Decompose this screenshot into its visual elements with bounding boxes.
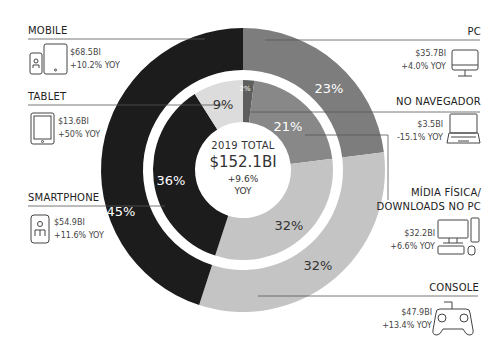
label-pc: PC xyxy=(468,26,481,37)
center-total-value: $152.1BI xyxy=(193,153,293,171)
label-browser: NO NAVEGADOR xyxy=(396,96,481,107)
tablet-icon xyxy=(31,113,54,144)
tablet-value: $13.6BI +50% YOY xyxy=(58,115,100,141)
pc-yoy: +4.0% YOY xyxy=(401,60,446,73)
pct-mobile: 45% xyxy=(107,204,136,219)
pct-tablet: 9% xyxy=(213,97,234,112)
physical-yoy: +6.6% YOY xyxy=(390,240,435,253)
label-smartphone: SMARTPHONE xyxy=(28,192,99,203)
pct-physical: 21% xyxy=(274,119,303,134)
pct-browser: 2% xyxy=(239,85,250,93)
smartphone-value: $54.9BI +11.6% YOY xyxy=(54,216,104,242)
browser-yoy: -15.1% YOY xyxy=(397,131,443,144)
mobile-yoy: +10.2% YOY xyxy=(70,59,120,72)
center-growth-suffix: YOY xyxy=(193,185,293,197)
pc-revenue: $35.7BI xyxy=(401,47,446,60)
mobile-value: $68.5BI +10.2% YOY xyxy=(70,46,120,72)
label-console: CONSOLE xyxy=(429,282,479,293)
console-revenue: $47.9BI xyxy=(382,306,432,319)
desktop-computer-icon xyxy=(438,218,479,255)
tablet-revenue: $13.6BI xyxy=(58,115,100,128)
gamepad-icon xyxy=(433,302,473,335)
label-physical-downloads: MÍDIA FÍSICA/ DOWNLOADS NO PC xyxy=(377,186,481,214)
physical-revenue: $32.2BI xyxy=(390,227,435,240)
label-tablet: TABLET xyxy=(28,91,66,102)
mobile-devices-icon xyxy=(30,44,67,74)
physical-value: $32.2BI +6.6% YOY xyxy=(390,227,435,253)
pct-pc: 23% xyxy=(315,81,344,96)
pct-smartphone: 36% xyxy=(157,173,186,188)
console-value: $47.9BI +13.4% YOY xyxy=(382,306,432,332)
smartphone-revenue: $54.9BI xyxy=(54,216,104,229)
center-title: 2019 TOTAL xyxy=(193,140,293,151)
pc-value: $35.7BI +4.0% YOY xyxy=(401,47,446,73)
smartphone-icon xyxy=(31,215,49,243)
label-mobile: MOBILE xyxy=(28,25,67,36)
center-total: 2019 TOTAL $152.1BI +9.6% YOY xyxy=(193,140,293,197)
laptop-icon xyxy=(447,114,480,143)
pct-console-inner: 32% xyxy=(275,218,304,233)
physical-label-line2: DOWNLOADS NO PC xyxy=(377,200,481,214)
mobile-revenue: $68.5BI xyxy=(70,46,120,59)
desktop-monitor-icon xyxy=(452,50,478,76)
smartphone-yoy: +11.6% YOY xyxy=(54,229,104,242)
browser-revenue: $3.5BI xyxy=(397,118,443,131)
console-yoy: +13.4% YOY xyxy=(382,319,432,332)
center-growth: +9.6% xyxy=(193,173,293,185)
browser-value: $3.5BI -15.1% YOY xyxy=(397,118,443,144)
tablet-yoy: +50% YOY xyxy=(58,128,100,141)
physical-label-line1: MÍDIA FÍSICA/ xyxy=(377,186,481,200)
pct-console-outer: 32% xyxy=(304,258,333,273)
